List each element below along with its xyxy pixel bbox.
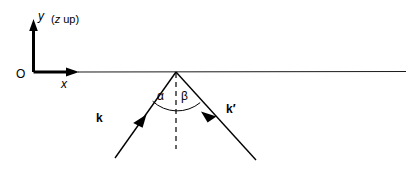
z-up-note-paren-close: ) (75, 13, 79, 25)
incident-ray-arrowhead-icon (133, 115, 146, 128)
y-axis-label: y (37, 9, 45, 23)
x-axis-label: x (60, 77, 68, 91)
scattered-ray-line (176, 72, 256, 160)
z-up-note: (z up) (51, 13, 79, 25)
incident-ray-line (115, 72, 176, 158)
horizontal-surface-line (78, 72, 406, 73)
angle-alpha-label: α (157, 89, 164, 103)
angle-beta-label: β (181, 89, 188, 103)
scattering-geometry-figure: y x O (z up) α β k k′ (0, 0, 416, 176)
incident-vector-label: k (96, 111, 103, 125)
origin-label: O (16, 67, 25, 81)
x-axis-arrowhead-icon (66, 67, 79, 76)
z-up-note-text: up (60, 13, 75, 25)
scattered-vector-label: k′ (226, 102, 236, 116)
y-axis-arrowhead-icon (29, 19, 38, 31)
figure-canvas: y x O (z up) α β k k′ (0, 0, 416, 176)
